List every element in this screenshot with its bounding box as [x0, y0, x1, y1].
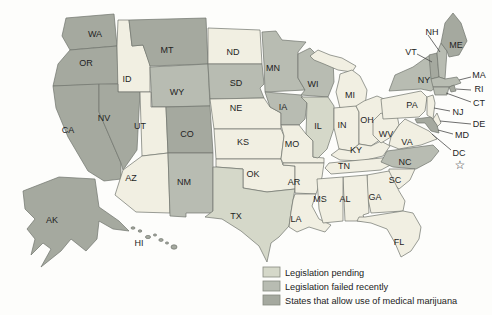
state-label-vt: VT — [405, 47, 417, 57]
state-label-mn: MN — [266, 63, 280, 73]
state-label-ar: AR — [288, 177, 301, 187]
leader-line-md — [438, 130, 453, 134]
state-label-co: CO — [180, 129, 194, 139]
leader-line-de — [440, 121, 471, 124]
legend-label-failed: Legislation failed recently — [285, 282, 389, 292]
legend-swatch-failed — [263, 281, 280, 291]
state-label-nj: NJ — [453, 107, 464, 117]
state-label-pa: PA — [406, 100, 417, 110]
leader-line-ma — [459, 77, 471, 80]
state-label-ks: KS — [237, 137, 249, 147]
state-label-hi: HI — [135, 238, 144, 248]
state-label-oh: OH — [360, 115, 374, 125]
state-label-or: OR — [79, 58, 93, 68]
state-label-nc: NC — [399, 157, 412, 167]
legend: Legislation pending Legislation failed r… — [263, 267, 458, 306]
hi-island — [171, 245, 177, 249]
state-label-ms: MS — [313, 194, 327, 204]
state-label-al: AL — [339, 194, 350, 204]
hi-island — [131, 227, 135, 229]
leader-line-ri — [456, 89, 471, 90]
state-label-md: MD — [455, 130, 469, 140]
state-label-sc: SC — [389, 175, 402, 185]
state-label-tn: TN — [338, 161, 350, 171]
state-label-ok: OK — [246, 169, 259, 179]
state-label-va: VA — [401, 137, 412, 147]
state-label-ma: MA — [472, 70, 486, 80]
state-label-mt: MT — [161, 45, 174, 55]
state-shape-fl — [357, 211, 421, 257]
state-label-ak: AK — [46, 215, 58, 225]
state-label-fl: FL — [394, 237, 405, 247]
state-label-az: AZ — [125, 173, 137, 183]
hi-island — [153, 234, 156, 236]
state-label-il: IL — [314, 121, 322, 131]
state-label-ny: NY — [418, 75, 431, 85]
legend-swatch-allow — [263, 295, 280, 305]
state-shape-pa — [381, 91, 427, 119]
hi-island — [165, 242, 168, 244]
state-label-wi: WI — [308, 79, 319, 89]
state-label-ia: IA — [279, 102, 288, 112]
state-shape-ma — [431, 77, 461, 87]
hi-island — [145, 235, 150, 238]
state-label-nm: NM — [177, 177, 191, 187]
state-shape-wy — [150, 64, 210, 107]
state-label-ne: NE — [230, 103, 243, 113]
hi-island — [138, 230, 142, 232]
state-label-de: DE — [473, 119, 486, 129]
state-label-ri: RI — [475, 84, 484, 94]
state-label-sd: SD — [230, 78, 243, 88]
state-shape-ak — [23, 177, 129, 267]
state-label-wv: WV — [379, 129, 394, 139]
hi-island — [159, 239, 163, 242]
state-label-ky: KY — [350, 145, 362, 155]
legend-swatch-pending — [263, 267, 280, 277]
state-label-wa: WA — [88, 29, 102, 39]
state-label-ct: CT — [473, 98, 485, 108]
state-label-ca: CA — [62, 125, 75, 135]
legend-label-pending: Legislation pending — [285, 268, 364, 278]
leader-line-nj — [434, 108, 450, 111]
state-label-in: IN — [338, 120, 347, 130]
state-shape-nd — [208, 28, 262, 64]
state-label-wy: WY — [170, 87, 185, 97]
state-label-nd: ND — [227, 47, 240, 57]
state-label-nv: NV — [98, 113, 111, 123]
state-label-dc: DC — [453, 148, 466, 158]
dc-star-icon: ☆ — [455, 158, 466, 172]
us-map: WA OR CA NV ID MT WY UT CO AZ NM ND SD N… — [0, 0, 492, 315]
leader-line-nh — [428, 35, 440, 52]
state-label-me: ME — [449, 40, 463, 50]
state-label-mi: MI — [345, 90, 355, 100]
state-label-tx: TX — [230, 211, 242, 221]
state-label-la: LA — [290, 214, 301, 224]
state-label-nh: NH — [426, 27, 439, 37]
state-shape-nj — [427, 95, 435, 119]
state-label-mo: MO — [285, 139, 300, 149]
state-shape-ct — [433, 87, 449, 95]
medical-marijuana-map-figure: WA OR CA NV ID MT WY UT CO AZ NM ND SD N… — [0, 0, 492, 315]
legend-label-allow: States that allow use of medical marijua… — [285, 296, 458, 306]
state-label-id: ID — [123, 74, 133, 84]
leader-line-ct — [446, 93, 471, 102]
state-label-ga: GA — [368, 192, 381, 202]
state-label-ut: UT — [134, 121, 146, 131]
